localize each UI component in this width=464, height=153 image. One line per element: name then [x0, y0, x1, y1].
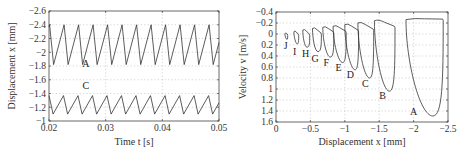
x-tick-label: 0.02: [41, 123, 58, 133]
right-xlabel: Displacement x [mm]: [318, 136, 405, 147]
y-tick-label: −0.4: [256, 7, 273, 17]
series-C-curve: [49, 96, 219, 115]
series-label: B: [379, 90, 386, 101]
series-A-curve: [49, 25, 219, 65]
y-tick-label: 0.4: [261, 51, 273, 61]
x-tick-label: 0.05: [211, 123, 228, 133]
right-plot-phase-portrait: −0.4−0.200.20.40.60.811.21.41.60−0.5−1−1…: [256, 7, 457, 134]
x-tick-label: −1: [340, 124, 350, 134]
x-tick-label: 0: [274, 124, 279, 134]
series-label: E: [336, 62, 342, 73]
series-label: C: [362, 78, 369, 89]
series-label: I: [293, 46, 296, 57]
series-G-loop: [313, 28, 322, 52]
y-tick-label: −1.4: [29, 89, 46, 99]
y-tick-label: 0.8: [261, 73, 273, 83]
y-tick-label: 1: [268, 84, 273, 94]
series-A-loop: [406, 19, 443, 116]
series-B-loop: [374, 20, 395, 91]
y-tick-label: −2.4: [29, 20, 46, 30]
series-label: C: [82, 80, 89, 91]
left-ylabel: Displacement x [mm]: [6, 22, 17, 109]
series-E-loop: [333, 26, 346, 63]
series-H-loop: [303, 29, 310, 47]
y-tick-label: 1.2: [261, 95, 273, 105]
left-xlabel: Time t [s]: [114, 136, 153, 147]
y-tick-label: 1.6: [261, 117, 273, 127]
right-ylabel: Velocity v [m/s]: [237, 35, 248, 99]
x-tick-label: −1.5: [371, 124, 388, 134]
series-label: D: [347, 69, 354, 80]
x-tick-label: 0.03: [97, 123, 114, 133]
x-tick-label: −2: [409, 124, 419, 134]
y-tick-label: −1.8: [29, 61, 46, 71]
series-label: J: [284, 40, 288, 51]
y-tick-label: 0.2: [261, 40, 273, 50]
x-tick-label: −2.5: [439, 124, 456, 134]
series-D-loop: [345, 24, 359, 70]
series-label: G: [312, 53, 319, 64]
x-tick-label: −0.5: [302, 124, 319, 134]
series-label: A: [410, 106, 418, 117]
x-tick-label: 0.04: [154, 123, 171, 133]
series-F-loop: [323, 27, 334, 57]
figure: −2.6−2.4−2.2−2−1.8−1.6−1.4−1.2−10.020.03…: [0, 0, 464, 153]
y-tick-label: −2.6: [29, 6, 46, 16]
y-tick-label: −1.2: [29, 103, 46, 113]
left-plot-time-displacement: −2.6−2.4−2.2−2−1.8−1.6−1.4−1.2−10.020.03…: [29, 6, 228, 133]
y-tick-label: 0.6: [261, 62, 273, 72]
y-tick-label: −2: [36, 48, 46, 58]
series-label: H: [302, 48, 309, 59]
series-I-loop: [294, 31, 299, 44]
series-label: A: [82, 58, 90, 69]
y-tick-label: −2.2: [29, 34, 46, 44]
series-C-loop: [358, 22, 374, 78]
y-tick-label: 0: [268, 29, 273, 39]
y-tick-label: −1.6: [29, 75, 46, 85]
y-tick-label: −0.2: [256, 18, 273, 28]
y-tick-label: 1.4: [261, 106, 273, 116]
series-label: F: [323, 57, 329, 68]
